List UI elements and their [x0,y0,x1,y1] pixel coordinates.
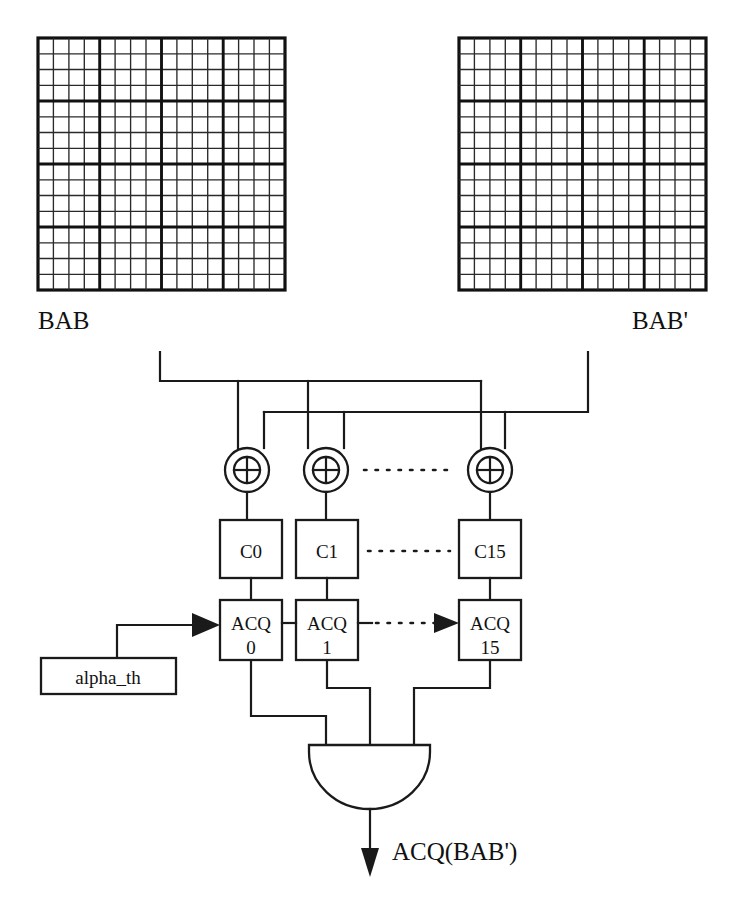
bab-prime-bus [264,352,588,448]
arrow-acq-chain-icon [434,613,459,633]
acq-box-1: ACQ 1 [296,600,358,660]
acq-box-1-label: ACQ [307,613,347,634]
xor-gate-0 [225,448,269,492]
acq-block-diagram: BAB [0,0,738,907]
acq-box-0-label: ACQ [231,613,271,634]
diagram-canvas: BAB [0,0,738,907]
output-arrow [361,809,379,877]
xor-gate-1 [304,448,348,492]
bab-prime-label: BAB' [632,307,688,334]
output-label: ACQ(BAB') [392,838,517,866]
xor-gate-15 [468,448,512,492]
acq-box-1-index: 1 [322,637,332,658]
bab-bus [160,352,481,448]
c-box-1: C1 [296,520,358,578]
acq-box-15: ACQ 15 [459,600,521,660]
and-gate [309,745,430,809]
bab-prime-grid [459,38,706,290]
acq-box-0: ACQ 0 [220,600,282,660]
c-box-15: C15 [459,520,521,578]
arrow-threshold-icon [192,613,220,637]
c-box-0: C0 [220,520,282,578]
alpha-th-label: alpha_th [75,667,141,688]
c-box-1-label: C1 [316,541,338,562]
c-box-0-label: C0 [240,541,262,562]
bab-grid [38,38,285,290]
arrow-output-icon [361,848,379,877]
alpha-th-box: alpha_th [41,658,176,694]
acq-box-15-index: 15 [481,637,500,658]
acq-to-and-wiring [251,660,490,745]
c-box-15-label: C15 [474,541,506,562]
acq-box-0-index: 0 [246,637,256,658]
acq-box-15-label: ACQ [470,613,510,634]
bab-label: BAB [38,307,89,334]
